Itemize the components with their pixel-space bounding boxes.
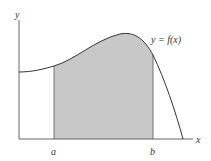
integral-diagram: y x y = f(x) a b [0,0,211,161]
curve-label: y = f(x) [150,34,182,46]
x-axis-label: x [195,134,201,145]
bound-label-b: b [150,146,155,157]
bound-label-a: a [51,146,56,157]
shaded-area [54,33,153,139]
y-axis-label: y [14,9,20,20]
